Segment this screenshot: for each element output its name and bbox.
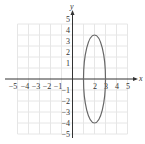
y-tick-label: 4 bbox=[66, 26, 70, 35]
y-tick-label: −2 bbox=[61, 97, 70, 106]
x-tick-label: 5 bbox=[126, 82, 130, 91]
x-axis-arrow-icon bbox=[133, 77, 138, 81]
y-tick-label: −1 bbox=[61, 86, 70, 95]
y-tick-label: −3 bbox=[61, 108, 70, 117]
y-tick-labels: 5 4 3 2 1 −1 −2 −3 −4 −5 bbox=[61, 15, 70, 139]
x-tick-label: −2 bbox=[43, 82, 52, 91]
y-tick-label: 1 bbox=[66, 59, 70, 68]
y-tick-label: 3 bbox=[66, 37, 70, 46]
x-tick-label: −3 bbox=[32, 82, 41, 91]
y-tick-label: −5 bbox=[61, 130, 70, 139]
x-axis bbox=[5, 77, 138, 81]
ellipse-plot: x y −5 −4 −3 −2 −1 2 3 4 5 5 4 3 2 1 −1 … bbox=[0, 0, 145, 144]
x-tick-label: −4 bbox=[21, 82, 30, 91]
y-tick-label: −4 bbox=[61, 119, 70, 128]
y-tick-label: 5 bbox=[66, 15, 70, 24]
x-tick-label: 2 bbox=[93, 82, 97, 91]
x-tick-label: −5 bbox=[9, 82, 18, 91]
x-axis-label: x bbox=[138, 74, 143, 83]
y-tick-label: 2 bbox=[66, 48, 70, 57]
y-axis-label: y bbox=[69, 2, 74, 11]
x-tick-label: 4 bbox=[115, 82, 119, 91]
y-axis bbox=[71, 10, 75, 138]
